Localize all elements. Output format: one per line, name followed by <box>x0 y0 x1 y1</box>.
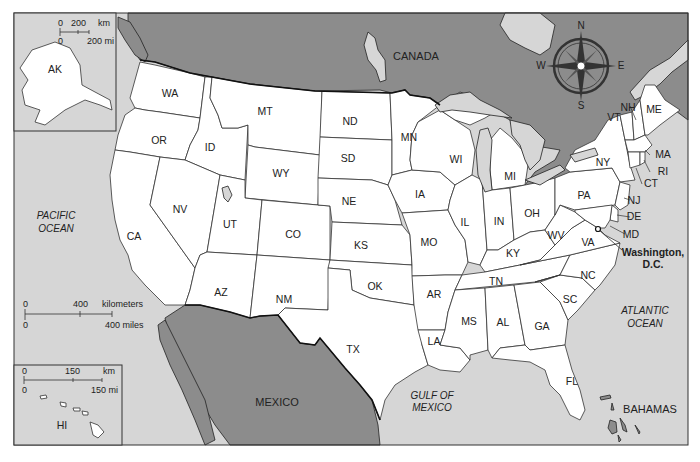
label-nj: NJ <box>628 194 641 206</box>
label-ks: KS <box>354 239 368 251</box>
label-pacific-2: OCEAN <box>38 223 74 234</box>
alaska-inset: 0 200 km 0 200 mi AK <box>14 13 116 131</box>
hawaii-inset: 0 150 km 0 150 mi HI <box>14 365 122 445</box>
label-canada: CANADA <box>393 50 440 62</box>
ak-scale-mi-zero: 0 <box>58 36 63 46</box>
label-ct: CT <box>644 177 659 189</box>
label-me: ME <box>646 103 662 115</box>
label-wy: WY <box>273 167 290 179</box>
label-hi: HI <box>57 419 68 431</box>
label-ri: RI <box>658 165 669 177</box>
label-id: ID <box>205 141 216 153</box>
label-in: IN <box>494 215 505 227</box>
hi-scale-km-value: 150 <box>65 366 80 376</box>
label-ny: NY <box>596 156 611 168</box>
label-wv: WV <box>548 229 565 241</box>
compass-n: N <box>577 20 584 31</box>
label-ca: CA <box>127 230 142 242</box>
scale-mi-zero: 0 <box>23 320 28 330</box>
label-atlantic-2: OCEAN <box>627 318 663 329</box>
state-ct[interactable] <box>628 152 640 168</box>
label-gulf-1: GULF OF <box>410 390 454 401</box>
hi-scale-mi-zero: 0 <box>22 385 27 395</box>
hi-scale-km-zero: 0 <box>22 366 27 376</box>
label-atlantic-1: ATLANTIC <box>620 305 669 316</box>
label-ut: UT <box>223 218 238 230</box>
label-al: AL <box>497 316 510 328</box>
label-va: VA <box>581 236 594 248</box>
us-map: 0 200 km 0 200 mi AK 0 150 km 0 150 mi H… <box>0 0 700 462</box>
label-gulf-2: MEXICO <box>412 402 452 413</box>
label-oh: OH <box>524 207 540 219</box>
label-co: CO <box>285 228 301 240</box>
label-fl: FL <box>566 375 578 387</box>
label-mo: MO <box>421 236 438 248</box>
label-la: LA <box>428 335 441 347</box>
label-mt: MT <box>257 105 273 117</box>
label-ne: NE <box>342 195 357 207</box>
scale-mi-value: 400 miles <box>105 320 144 330</box>
label-nc: NC <box>580 269 596 281</box>
hi-scale-km-unit: km <box>103 366 115 376</box>
label-ia: IA <box>415 188 425 200</box>
label-ma: MA <box>655 148 671 160</box>
label-az: AZ <box>214 286 228 298</box>
label-mi: MI <box>504 170 516 182</box>
compass-w: W <box>536 60 546 71</box>
label-ok: OK <box>367 280 382 292</box>
label-sc: SC <box>563 293 578 305</box>
label-ky: KY <box>506 247 520 259</box>
label-mexico: MEXICO <box>255 396 299 408</box>
label-wa: WA <box>162 87 179 99</box>
ak-scale-km-unit: km <box>98 18 110 28</box>
label-sd: SD <box>341 152 356 164</box>
label-mn: MN <box>401 131 417 143</box>
label-wi: WI <box>450 153 463 165</box>
compass-s: S <box>578 100 585 111</box>
ak-scale-km-zero: 0 <box>58 18 63 28</box>
label-pa: PA <box>577 189 590 201</box>
hi-scale-mi-value: 150 mi <box>91 385 118 395</box>
compass-e: E <box>618 60 625 71</box>
label-nd: ND <box>342 115 358 127</box>
label-nm: NM <box>276 293 292 305</box>
label-ak: AK <box>48 63 62 75</box>
label-ar: AR <box>427 288 442 300</box>
label-il: IL <box>461 216 470 228</box>
label-dc-2: D.C. <box>643 258 664 270</box>
ak-scale-km-value: 200 <box>71 18 86 28</box>
scale-km-zero: 0 <box>23 299 28 309</box>
label-nv: NV <box>173 203 188 215</box>
label-ms: MS <box>461 315 477 327</box>
label-md: MD <box>623 228 640 240</box>
label-pacific-1: PACIFIC <box>37 210 76 221</box>
state-ks[interactable] <box>330 222 412 265</box>
label-or: OR <box>151 134 167 146</box>
scale-km-value: 400 <box>73 299 88 309</box>
label-tn: TN <box>489 275 503 287</box>
label-dc-1: Washington, <box>622 246 685 258</box>
ak-scale-mi-value: 200 mi <box>87 36 114 46</box>
label-ga: GA <box>534 320 549 332</box>
label-bahamas: BAHAMAS <box>623 403 677 415</box>
label-vt: VT <box>607 111 621 123</box>
label-tx: TX <box>346 343 359 355</box>
label-nh: NH <box>620 101 635 113</box>
capital-marker-icon <box>596 227 601 232</box>
label-de: DE <box>627 210 642 222</box>
scale-km-unit: kilometers <box>102 299 144 309</box>
